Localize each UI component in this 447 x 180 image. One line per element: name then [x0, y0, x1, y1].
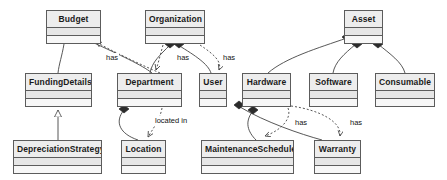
class-box-maintenanceschedule[interactable]: MaintenanceSchedule — [201, 140, 294, 174]
class-operations-user — [200, 99, 226, 106]
edge-organization-user-dependency — [200, 45, 220, 70]
class-operations-hardware — [243, 99, 290, 106]
class-attributes-software — [310, 91, 357, 99]
class-box-hardware[interactable]: Hardware — [242, 73, 291, 107]
class-name-organization: Organization — [146, 11, 204, 28]
class-box-warranty[interactable]: Warranty — [314, 140, 361, 174]
class-name-maintenanceschedule: MaintenanceSchedule — [202, 141, 293, 158]
class-name-budget: Budget — [47, 11, 100, 28]
edge-hardware-maintenance-dependency — [265, 108, 289, 136]
class-operations-software — [310, 99, 357, 106]
edge-asset-hardware — [268, 38, 347, 73]
class-attributes-department — [118, 91, 181, 99]
class-box-department[interactable]: Department — [117, 73, 182, 107]
class-name-consumable: Consumable — [376, 74, 434, 91]
class-box-fundingdetails[interactable]: FundingDetails — [25, 73, 92, 107]
class-box-consumable[interactable]: Consumable — [375, 73, 435, 107]
edge-label-organization-department: has — [176, 53, 190, 62]
edge-label-hardware-maintenanceschedule: has — [294, 118, 308, 127]
class-name-asset: Asset — [345, 11, 382, 28]
class-name-depreciationstrategy: DepreciationStrategy — [14, 141, 101, 158]
uml-class-diagram-canvas: Budget Organization Asset FundingDetails… — [0, 0, 447, 180]
edge-asset-software — [333, 44, 356, 73]
class-operations-asset — [345, 36, 382, 43]
class-name-hardware: Hardware — [243, 74, 290, 91]
class-operations-maintenanceschedule — [202, 166, 293, 173]
class-box-location[interactable]: Location — [121, 140, 166, 174]
edge-label-hardware-warranty: has — [349, 118, 363, 127]
class-attributes-fundingdetails — [26, 91, 91, 99]
class-attributes-maintenanceschedule — [202, 158, 293, 166]
class-name-location: Location — [122, 141, 165, 158]
class-operations-location — [122, 166, 165, 173]
class-name-software: Software — [310, 74, 357, 91]
class-box-organization[interactable]: Organization — [145, 10, 205, 44]
class-attributes-organization — [146, 28, 204, 36]
edge-organization-department — [150, 45, 170, 73]
edge-department-location — [119, 110, 138, 140]
edge-label-organization-user: has — [222, 53, 236, 62]
class-box-user[interactable]: User — [199, 73, 227, 107]
class-box-asset[interactable]: Asset — [344, 10, 383, 44]
class-box-depreciationstrategy[interactable]: DepreciationStrategy — [13, 140, 102, 174]
class-operations-warranty — [315, 166, 360, 173]
edge-organization-department-dependency — [156, 45, 163, 70]
class-attributes-user — [200, 91, 226, 99]
class-attributes-budget — [47, 28, 100, 36]
class-operations-organization — [146, 36, 204, 43]
class-name-fundingdetails: FundingDetails — [26, 74, 91, 91]
edge-label-department-location: located in — [154, 116, 188, 125]
class-name-warranty: Warranty — [315, 141, 360, 158]
class-operations-department — [118, 99, 181, 106]
class-name-user: User — [200, 74, 226, 91]
edge-label-budget-department: has — [105, 53, 119, 62]
class-operations-depreciationstrategy — [14, 166, 101, 173]
edge-asset-consumable — [378, 44, 405, 73]
class-operations-consumable — [376, 99, 434, 106]
class-attributes-consumable — [376, 91, 434, 99]
class-operations-fundingdetails — [26, 99, 91, 106]
class-attributes-warranty — [315, 158, 360, 166]
class-name-department: Department — [118, 74, 181, 91]
class-attributes-depreciationstrategy — [14, 158, 101, 166]
class-attributes-hardware — [243, 91, 290, 99]
class-operations-budget — [47, 36, 100, 43]
class-attributes-location — [122, 158, 165, 166]
class-box-software[interactable]: Software — [309, 73, 358, 107]
edge-budget-fundingdetails — [58, 44, 64, 73]
edge-budget-department — [92, 42, 152, 73]
class-attributes-asset — [345, 28, 382, 36]
class-box-budget[interactable]: Budget — [46, 10, 101, 44]
